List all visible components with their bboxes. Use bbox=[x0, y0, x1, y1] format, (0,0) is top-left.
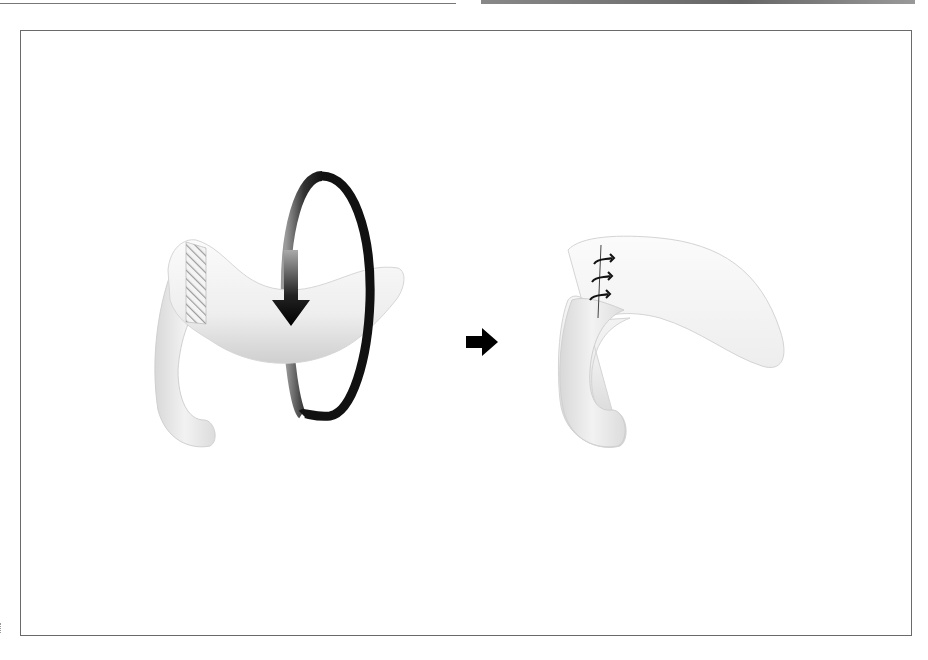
figure-illustration bbox=[0, 0, 928, 660]
right-flap-group bbox=[558, 236, 784, 447]
right-arrow-icon bbox=[466, 328, 498, 356]
left-flap-group bbox=[155, 176, 404, 447]
hatched-excision-zone bbox=[186, 242, 206, 324]
